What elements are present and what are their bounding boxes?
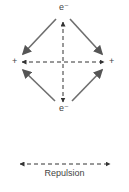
attraction-arrow-top-right bbox=[70, 19, 102, 54]
left-proton-label: + bbox=[12, 57, 17, 66]
attraction-arrow-bottom-right bbox=[72, 70, 102, 101]
attraction-arrow-bottom-left bbox=[23, 70, 55, 101]
attraction-arrow-top-left bbox=[23, 19, 56, 54]
charge-diagram bbox=[0, 0, 129, 192]
bottom-electron-label: e⁻ bbox=[59, 104, 69, 113]
right-proton-label: + bbox=[109, 57, 114, 66]
top-electron-label: e⁻ bbox=[59, 3, 69, 12]
legend-caption: Repulsion bbox=[0, 168, 129, 178]
